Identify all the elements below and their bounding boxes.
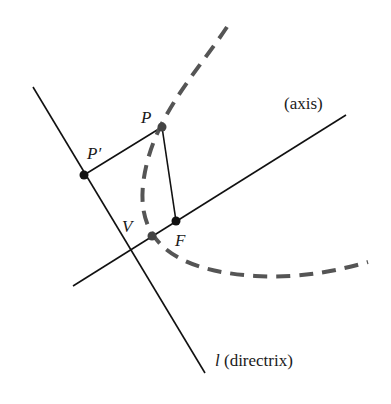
- segment-p-to-focus: [162, 127, 176, 221]
- point-p-prime: [80, 171, 89, 180]
- label-focus-f: F: [175, 232, 185, 249]
- label-point-p-prime: P′: [87, 145, 101, 162]
- parabola-diagram: P P′ V F (axis) l (directrix): [0, 0, 391, 404]
- axis-line: [73, 115, 346, 286]
- label-directrix: l (directrix): [215, 352, 293, 369]
- label-axis: (axis): [284, 95, 323, 112]
- directrix-line: [33, 87, 205, 373]
- directrix-text: (directrix): [220, 351, 293, 370]
- label-point-p: P: [141, 109, 151, 126]
- label-vertex-v: V: [122, 218, 132, 235]
- point-p: [158, 123, 167, 132]
- point-f: [172, 217, 181, 226]
- diagram-canvas: [0, 0, 391, 404]
- point-v: [148, 232, 157, 241]
